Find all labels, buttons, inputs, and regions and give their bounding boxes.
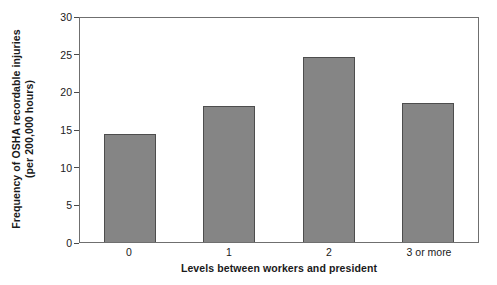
y-axis-tick-label: 10 (46, 163, 72, 173)
bar-slot (180, 18, 280, 242)
x-axis-tick-label: 0 (79, 246, 179, 258)
bar (203, 106, 255, 242)
y-axis-title-line-1: Frequency of OSHA recordable injuries (10, 29, 22, 228)
x-axis-tick-label: 2 (279, 246, 379, 258)
y-axis-tick-label: 25 (46, 50, 72, 60)
bar (104, 134, 156, 242)
y-axis-title-line-2: (per 200,000 hours) (23, 29, 36, 228)
bar-series (80, 18, 478, 242)
plot-area (79, 17, 479, 243)
bar (303, 57, 355, 242)
y-axis-tick-label: 15 (46, 125, 72, 135)
y-axis-tick-labels: 051015202530 (46, 17, 72, 243)
x-axis-tick-label: 1 (179, 246, 279, 258)
x-axis-tick-label: 3 or more (379, 246, 479, 258)
y-axis-title: Frequency of OSHA recordable injuries (p… (0, 0, 46, 258)
y-axis-tick-label: 20 (46, 87, 72, 97)
bar-slot (379, 18, 479, 242)
bar-chart-figure: Frequency of OSHA recordable injuries (p… (0, 0, 497, 285)
bar (402, 103, 454, 242)
y-axis-tick-label: 5 (46, 200, 72, 210)
bar-slot (279, 18, 379, 242)
x-axis-title: Levels between workers and president (79, 262, 479, 274)
y-axis-tick-label: 0 (46, 238, 72, 248)
bar-slot (80, 18, 180, 242)
y-axis-tick-label: 30 (46, 12, 72, 22)
x-axis-tick-labels: 0123 or more (79, 246, 479, 258)
